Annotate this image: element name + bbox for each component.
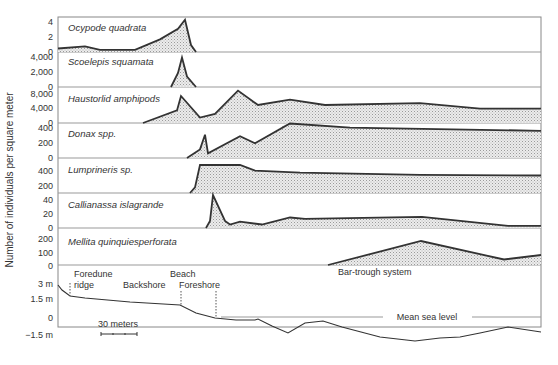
svg-text:−1.5 m: −1.5 m — [25, 330, 53, 340]
svg-text:0: 0 — [48, 261, 53, 271]
panel-title: Donax spp. — [68, 128, 116, 139]
panel-donax: Donax spp. 400 200 0 — [38, 122, 541, 163]
scale-label: 30 meters — [98, 319, 139, 329]
panel-title: Callianassa islagrande — [68, 199, 164, 210]
svg-text:2: 2 — [48, 32, 53, 42]
panel-title: Scoelepis squamata — [68, 56, 154, 67]
beach-profile: Mean sea level Foredune ridge Backshore … — [25, 267, 541, 341]
foredune-label: Foredune — [74, 269, 113, 279]
panel-haustorlid: Haustorlid amphipods 8,000 4,000 0 — [30, 89, 541, 128]
figure: Ocypode quadrata 4 2 0 Scoelepis squamat… — [0, 0, 558, 365]
svg-text:40: 40 — [43, 195, 53, 205]
svg-text:4: 4 — [48, 17, 53, 27]
panel-title: Haustorlid amphipods — [68, 93, 160, 104]
svg-text:200: 200 — [38, 138, 53, 148]
panel-title: Mellita quinquiesperforata — [68, 236, 177, 247]
panel-separators — [58, 52, 541, 265]
ridge-label: ridge — [74, 280, 94, 290]
svg-text:200: 200 — [38, 181, 53, 191]
svg-text:0: 0 — [48, 223, 53, 233]
svg-text:1.5 m: 1.5 m — [30, 294, 53, 304]
svg-text:400: 400 — [38, 123, 53, 133]
panel-lumprineris: Lumprineris sp. 400 200 — [38, 164, 541, 193]
svg-text:0: 0 — [48, 313, 53, 323]
svg-text:20: 20 — [43, 209, 53, 219]
svg-text:2,000: 2,000 — [30, 67, 53, 77]
panel-title: Lumprineris sp. — [68, 164, 133, 175]
panel-callianassa: Callianassa islagrande 40 20 0 — [43, 195, 541, 233]
scale-bar — [101, 332, 137, 336]
svg-text:400: 400 — [38, 166, 53, 176]
svg-text:3 m: 3 m — [38, 279, 53, 289]
bar-trough-label: Bar-trough system — [338, 267, 412, 277]
profile-y-ticks: 3 m 1.5 m 0 −1.5 m — [25, 279, 53, 340]
mean-sea-level-label: Mean sea level — [397, 312, 458, 322]
panel-title: Ocypode quadrata — [68, 22, 146, 33]
svg-text:4,000: 4,000 — [30, 52, 53, 62]
svg-text:4,000: 4,000 — [30, 103, 53, 113]
panel-scoelepis: Scoelepis squamata 4,000 2,000 0 — [30, 52, 196, 92]
svg-text:100: 100 — [38, 248, 53, 258]
beach-label: Beach — [170, 269, 196, 279]
svg-text:0: 0 — [48, 153, 53, 163]
svg-text:200: 200 — [38, 234, 53, 244]
svg-text:8,000: 8,000 — [30, 89, 53, 99]
panel-ocypode: Ocypode quadrata 4 2 0 — [48, 17, 196, 57]
foreshore-label: Foreshore — [179, 280, 220, 290]
backshore-label: Backshore — [123, 280, 166, 290]
